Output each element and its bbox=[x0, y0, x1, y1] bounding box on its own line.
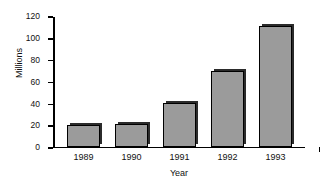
y-axis-tick-label: 20 bbox=[31, 121, 40, 130]
y-axis-tick-label: 40 bbox=[31, 99, 40, 108]
plot-area: 020406080100120 bbox=[53, 17, 290, 148]
bar bbox=[211, 71, 244, 147]
bar bbox=[163, 103, 196, 146]
y-axis-tick-label: 80 bbox=[31, 56, 40, 65]
y-axis-tick: 0 bbox=[48, 147, 53, 149]
bar-chart: Millions 020406080100120 198919901991199… bbox=[0, 0, 321, 188]
bar-series bbox=[53, 17, 305, 147]
y-axis-title: Millions bbox=[14, 28, 24, 98]
x-axis-title: Year bbox=[53, 168, 305, 178]
bar bbox=[115, 124, 148, 147]
bar bbox=[259, 26, 292, 147]
x-axis-tick-label: 1989 bbox=[60, 152, 108, 163]
y-axis-tick-label: 0 bbox=[35, 143, 40, 152]
x-axis-line bbox=[53, 147, 305, 149]
x-axis-tick-label: 1991 bbox=[156, 152, 204, 163]
x-axis-tick-label: 1990 bbox=[108, 152, 156, 163]
x-axis-tick-labels: 19891990199119921993 bbox=[53, 152, 305, 166]
y-axis-tick-label: 120 bbox=[26, 12, 40, 21]
x-axis-end-cap bbox=[319, 147, 321, 152]
y-axis-tick-label: 60 bbox=[31, 78, 40, 87]
x-axis-tick-label: 1992 bbox=[204, 152, 252, 163]
x-axis-tick-label: 1993 bbox=[252, 152, 300, 163]
y-axis-tick-label: 100 bbox=[26, 34, 40, 43]
bar bbox=[67, 125, 100, 147]
